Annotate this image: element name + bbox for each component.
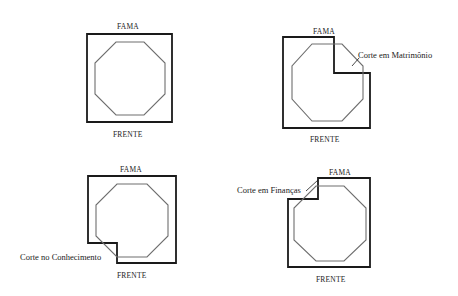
bagua-octagon — [292, 44, 363, 121]
top-label-fama: FAMA — [120, 166, 142, 174]
house-outline-missing-top-right — [283, 37, 370, 128]
bagua-octagon — [294, 186, 366, 261]
diagram-intact — [87, 34, 172, 122]
diagram-matrimonio — [283, 37, 370, 128]
bottom-label-frente: FRENTE — [113, 131, 143, 139]
cut-label-conhecimento: Corte no Conhecimento — [20, 253, 101, 262]
bagua-octagon — [96, 184, 168, 257]
top-label-fama: FAMA — [117, 23, 139, 31]
bottom-label-frente: FRENTE — [316, 276, 346, 284]
house-outline-square — [87, 34, 172, 122]
house-outline-missing-bottom-left — [88, 176, 176, 263]
cut-label-matrimonio: Corte em Matrimônio — [358, 51, 432, 60]
cut-label-financas: Corte em Finanças — [237, 186, 301, 195]
diagram-conhecimento — [88, 176, 176, 263]
top-label-fama: FAMA — [329, 169, 351, 177]
bottom-label-frente: FRENTE — [310, 136, 340, 144]
top-label-fama: FAMA — [313, 28, 335, 36]
bottom-label-frente: FRENTE — [117, 272, 147, 280]
bagua-octagon — [95, 42, 165, 115]
